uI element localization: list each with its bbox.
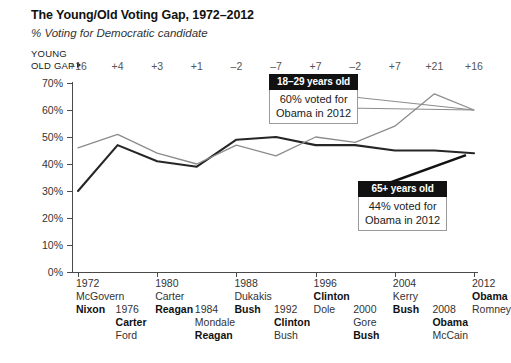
election-label: 1992ClintonBush [274,303,310,342]
candidate-republican: Dole [314,303,350,316]
callout-young-line2: Obama in 2012 [276,106,351,120]
candidate-democrat: Clinton [314,290,350,303]
y-tick-label: 0% [48,266,63,278]
candidate-democrat: Mondale [195,316,235,329]
election-label: 1996ClintonDole [314,277,350,316]
election-year: 1976 [116,303,147,316]
election-year: 2008 [432,303,468,316]
y-tick-label: 40% [42,158,63,170]
y-tick-label: 50% [42,131,63,143]
candidate-republican: Bush [234,303,271,316]
callout-old-voters: 65+ years old 44% voted for Obama in 201… [358,181,447,231]
election-year: 2004 [393,277,419,290]
candidate-democrat: Gore [353,316,379,329]
candidate-republican: Bush [353,329,379,342]
gap-value: –7 [270,60,282,72]
callout-old-line1: 44% voted for [365,199,440,213]
candidate-democrat: Kerry [393,290,419,303]
candidate-democrat: Obama [472,290,511,303]
election-year: 1984 [195,303,235,316]
candidate-republican: Bush [393,303,419,316]
callout-young-voters: 18–29 years old 60% voted for Obama in 2… [269,74,358,124]
election-label: 1988DukakisBush [234,277,271,316]
election-year: 2012 [472,277,511,290]
gap-value: +1 [191,60,203,72]
gap-value: +16 [69,60,87,72]
candidate-republican: Bush [274,329,310,342]
callout-old-line2: Obama in 2012 [365,213,440,227]
y-tick-label: 30% [42,185,63,197]
candidate-republican: Reagan [195,329,235,342]
gap-value: –2 [231,60,243,72]
candidate-democrat: Clinton [274,316,310,329]
election-label: 2000GoreBush [353,303,379,342]
y-tick-label: 60% [42,104,63,116]
gap-value: –2 [349,60,361,72]
election-year: 1996 [314,277,350,290]
election-label: 1980CarterReagan [155,277,193,316]
x-axis-line [72,272,478,273]
candidate-republican: McCain [432,329,468,342]
election-year: 2000 [353,303,379,316]
election-year: 1972 [76,277,124,290]
y-tick [67,272,72,273]
candidate-democrat: Dukakis [234,290,271,303]
election-year: 1988 [234,277,271,290]
candidate-democrat: McGovern [76,290,124,303]
callout-young-body: 60% voted for Obama in 2012 [269,90,358,124]
candidate-democrat: Obama [432,316,468,329]
y-tick-label: 10% [42,239,63,251]
candidate-democrat: Carter [116,316,147,329]
election-year: 1992 [274,303,310,316]
y-tick-label: 20% [42,212,63,224]
callout-old-header: 65+ years old [358,181,447,197]
election-year: 1980 [155,277,193,290]
gap-value: +7 [389,60,401,72]
y-axis-labels: 0%10%20%30%40%50%60%70% [0,0,63,363]
callout-old-body: 44% voted for Obama in 2012 [358,197,447,231]
election-label: 2004KerryBush [393,277,419,316]
candidate-republican: Romney [472,303,511,316]
election-label: 1976CarterFord [116,303,147,342]
callout-young-header: 18–29 years old [269,74,358,90]
election-label: 1984MondaleReagan [195,303,235,342]
y-tick-label: 70% [42,77,63,89]
candidate-democrat: Carter [155,290,193,303]
candidate-republican: Reagan [155,303,193,316]
gap-value: +16 [465,60,483,72]
page-title: The Young/Old Voting Gap, 1972–2012 [31,8,254,22]
gap-value: +4 [112,60,124,72]
candidate-republican: Ford [116,329,147,342]
gap-value: +21 [425,60,443,72]
election-label: 2012ObamaRomney [472,277,511,316]
gap-value: +7 [310,60,322,72]
gap-value: +3 [151,60,163,72]
callout-young-line1: 60% voted for [276,92,351,106]
election-label: 2008ObamaMcCain [432,303,468,342]
